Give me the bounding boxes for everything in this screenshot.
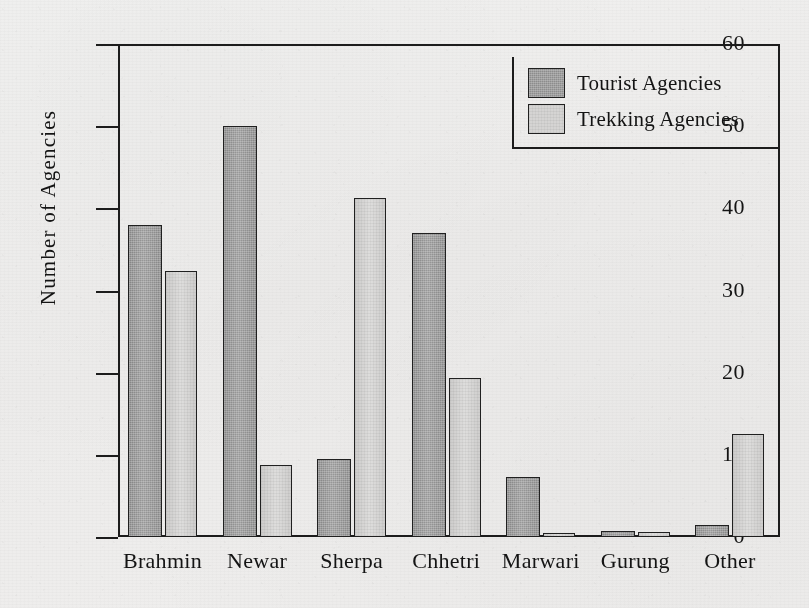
- bar-chhetri-trekking: [449, 378, 481, 537]
- bar-marwari-tourist: [506, 477, 540, 537]
- bar-newar-tourist: [223, 126, 257, 537]
- legend-label-tourist: Tourist Agencies: [577, 71, 722, 96]
- bar-gurung-trekking: [638, 532, 670, 537]
- bar-brahmin-tourist: [128, 225, 162, 537]
- x-tick-label-chhetri: Chhetri: [412, 548, 480, 574]
- bar-other-trekking: [732, 434, 764, 537]
- x-tick-label-other: Other: [704, 548, 756, 574]
- legend-swatch-icon-trekking: [528, 104, 565, 134]
- x-tick-label-sherpa: Sherpa: [320, 548, 383, 574]
- legend-item-trekking-agencies: Trekking Agencies: [528, 104, 739, 134]
- x-tick-label-newar: Newar: [227, 548, 287, 574]
- legend-swatch-icon-tourist: [528, 68, 565, 98]
- y-tick-mark: [96, 373, 118, 375]
- x-tick-label-gurung: Gurung: [601, 548, 670, 574]
- legend-label-trekking: Trekking Agencies: [577, 107, 739, 132]
- bar-marwari-trekking: [543, 533, 575, 537]
- legend-item-tourist-agencies: Tourist Agencies: [528, 68, 722, 98]
- bar-chhetri-tourist: [412, 233, 446, 537]
- bar-other-tourist: [695, 525, 729, 537]
- y-tick-mark: [96, 126, 118, 128]
- y-axis-title: Number of Agencies: [36, 68, 61, 348]
- bar-newar-trekking: [260, 465, 292, 537]
- y-tick-mark: [96, 537, 118, 539]
- x-tick-label-marwari: Marwari: [502, 548, 580, 574]
- y-tick-mark: [96, 291, 118, 293]
- bar-gurung-tourist: [601, 531, 635, 537]
- chart-page: Number of Agencies 0102030405060 Brahmin…: [0, 0, 809, 608]
- bar-brahmin-trekking: [165, 271, 197, 537]
- bar-sherpa-tourist: [317, 459, 351, 537]
- x-tick-label-brahmin: Brahmin: [123, 548, 202, 574]
- y-tick-mark: [96, 455, 118, 457]
- y-tick-mark: [96, 44, 118, 46]
- chart-legend: Tourist Agencies Trekking Agencies: [512, 57, 780, 149]
- bar-sherpa-trekking: [354, 198, 386, 537]
- y-tick-mark: [96, 208, 118, 210]
